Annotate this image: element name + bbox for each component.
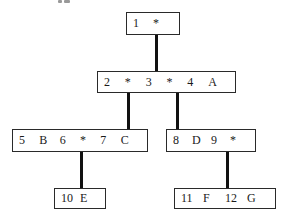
node-key: * xyxy=(80,133,100,148)
node-key: D xyxy=(192,133,211,148)
node-key: * xyxy=(153,16,173,31)
node-key: 12 xyxy=(225,191,247,206)
tree-node-n6: 11F12G xyxy=(174,188,276,209)
tree-node-n4: 8D9* xyxy=(166,129,256,152)
tree-edge-n3-n5 xyxy=(80,152,83,188)
node-key: 7 xyxy=(100,133,120,148)
tree-edge-n2-n3 xyxy=(127,93,130,129)
text-fragment xyxy=(58,0,62,3)
tree-edge-n2-n4 xyxy=(176,93,179,129)
node-key: 6 xyxy=(60,133,80,148)
node-key: 8 xyxy=(173,133,192,148)
tree-node-n5: 10E xyxy=(54,188,106,209)
node-key: 4 xyxy=(187,75,208,90)
node-key: A xyxy=(208,75,229,90)
node-key: 2 xyxy=(104,75,125,90)
node-key: E xyxy=(80,191,99,206)
tree-edge-n4-n6 xyxy=(226,152,229,188)
node-key: 3 xyxy=(146,75,167,90)
node-key: * xyxy=(166,75,187,90)
node-key: 5 xyxy=(19,133,39,148)
tree-node-n1: 1* xyxy=(126,12,180,35)
node-key: 9 xyxy=(211,133,230,148)
tree-node-n3: 5B6*7C xyxy=(12,129,148,152)
node-key: * xyxy=(230,133,249,148)
tree-node-n2: 2*3*4A xyxy=(97,71,236,93)
text-fragment xyxy=(64,0,70,3)
node-key: C xyxy=(121,133,141,148)
node-key: 1 xyxy=(133,16,153,31)
node-key: * xyxy=(125,75,146,90)
node-key: B xyxy=(39,133,59,148)
tree-edge-n1-n2 xyxy=(155,35,158,71)
node-key: 10 xyxy=(61,191,80,206)
node-key: F xyxy=(203,191,225,206)
node-key: G xyxy=(247,191,269,206)
node-key: 11 xyxy=(181,191,203,206)
